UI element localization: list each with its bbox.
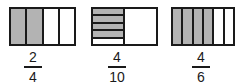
left-half-strips (93, 9, 125, 44)
fraction-bar (108, 66, 126, 68)
right-half-unshaded (125, 9, 157, 44)
shaded-part (93, 31, 123, 38)
fraction-bar (24, 66, 42, 68)
unshaded-part (44, 9, 60, 44)
fraction-label-2: 4 10 (102, 50, 132, 84)
fraction-label-3: 4 6 (186, 50, 216, 84)
numerator: 4 (102, 50, 132, 65)
unshaded-part (214, 9, 224, 44)
denominator: 6 (186, 70, 216, 84)
unshaded-part (225, 9, 233, 44)
unshaded-part (93, 39, 123, 44)
fraction-label-1: 2 4 (18, 50, 48, 84)
fraction-model-4-6 (171, 7, 235, 46)
numerator: 2 (18, 50, 48, 65)
denominator: 4 (18, 70, 48, 84)
shaded-part (204, 9, 214, 44)
shaded-part (93, 16, 123, 23)
fraction-model-2-4 (9, 7, 76, 46)
numerator: 4 (186, 50, 216, 65)
shaded-part (11, 9, 27, 44)
denominator: 10 (102, 70, 132, 84)
shaded-part (93, 9, 123, 16)
unshaded-part (60, 9, 74, 44)
fraction-model-4-10 (91, 7, 158, 46)
shaded-part (194, 9, 204, 44)
shaded-part (183, 9, 193, 44)
shaded-part (173, 9, 183, 44)
fraction-bar (192, 66, 210, 68)
shaded-part (27, 9, 43, 44)
shaded-part (93, 24, 123, 31)
